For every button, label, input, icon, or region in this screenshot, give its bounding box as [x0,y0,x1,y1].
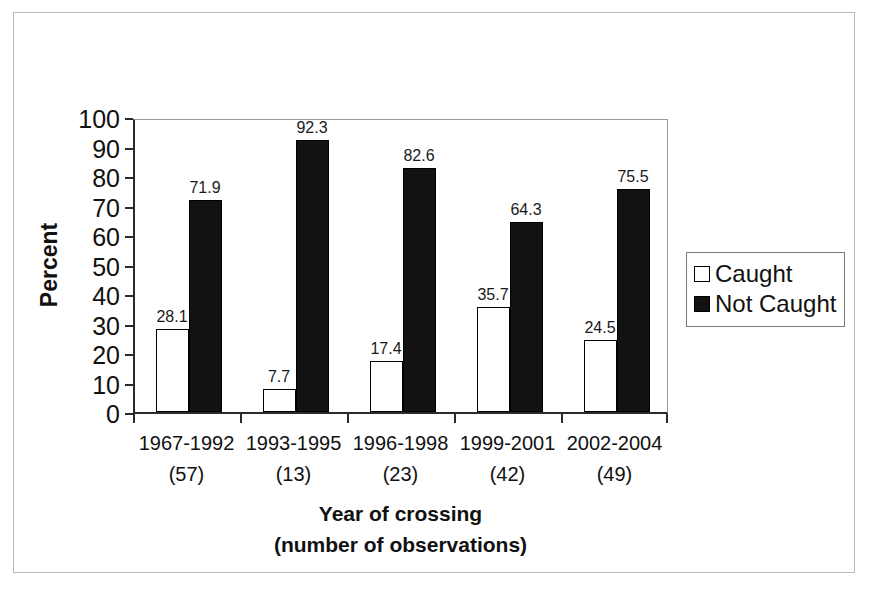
y-tick-mark [125,266,133,268]
y-tick-label: 20 [92,340,120,370]
black-square-icon [694,296,710,312]
bar [584,340,617,412]
bar [403,168,436,412]
x-label-years: 1967-1992 [139,432,235,454]
x-label-count: (23) [341,459,460,490]
x-axis-title-line1: Year of crossing [319,502,482,525]
x-label-count: (57) [127,459,246,490]
y-tick-label: 70 [92,193,120,223]
y-tick-label: 30 [92,311,120,341]
bar [370,361,403,412]
bar [189,200,222,412]
x-label-years: 1999-2001 [460,432,556,454]
chart-figure: Percent 1009080706050403020100 28.171.97… [0,0,869,591]
bar [156,329,189,412]
y-tick-mark [125,177,133,179]
x-axis-category-label: 2002-2004(49) [555,428,674,490]
x-axis-title-line2: (number of observations) [133,529,668,560]
y-axis-ticks: 1009080706050403020100 [0,119,133,414]
bar-group: 28.171.9 [135,120,242,412]
x-tick-mark [347,414,349,423]
legend-label: Not Caught [715,291,836,317]
bar-group: 24.575.5 [563,120,670,412]
y-tick-mark [125,384,133,386]
white-square-icon [694,266,710,282]
x-tick-mark [454,414,456,423]
bar-value-label: 75.5 [607,169,660,185]
bar-value-label: 82.6 [393,148,446,164]
x-axis-category-label: 1993-1995(13) [234,428,353,490]
x-tick-mark [666,414,668,423]
y-tick-label: 0 [106,399,120,429]
x-label-years: 1993-1995 [246,432,342,454]
bar [477,307,510,412]
x-tick-mark [240,414,242,423]
x-axis-labels: 1967-1992(57)1993-1995(13)1996-1998(23)1… [133,428,668,490]
x-axis-category-label: 1996-1998(23) [341,428,460,490]
y-tick-mark [125,148,133,150]
legend-item: Caught [694,259,836,289]
y-tick-mark [125,325,133,327]
bar-value-label: 71.9 [179,180,232,196]
y-tick-mark [125,295,133,297]
bar-value-label: 92.3 [286,120,339,136]
y-tick-label: 50 [92,252,120,282]
bar-group: 7.792.3 [242,120,349,412]
x-label-count: (49) [555,459,674,490]
x-label-count: (42) [448,459,567,490]
legend-item: Not Caught [694,289,836,319]
bar [263,389,296,412]
x-label-years: 1996-1998 [353,432,449,454]
chart-legend: CaughtNot Caught [686,252,845,327]
y-tick-mark [125,118,133,120]
x-label-years: 2002-2004 [567,432,663,454]
x-axis-title: Year of crossing (number of observations… [133,498,668,560]
bar [296,140,329,412]
x-axis-category-label: 1999-2001(42) [448,428,567,490]
x-tick-mark [561,414,563,423]
x-label-count: (13) [234,459,353,490]
plot-area: 28.171.97.792.317.482.635.764.324.575.5 [133,119,668,414]
x-axis-category-label: 1967-1992(57) [127,428,246,490]
y-tick-label: 80 [92,163,120,193]
y-tick-mark [125,354,133,356]
bar-group: 17.482.6 [349,120,456,412]
legend-label: Caught [715,261,792,287]
y-tick-label: 40 [92,281,120,311]
bar [510,222,543,412]
x-tick-mark [133,414,135,423]
y-tick-label: 90 [92,134,120,164]
y-tick-mark [125,236,133,238]
bar [617,189,650,412]
bars-layer: 28.171.97.792.317.482.635.764.324.575.5 [135,120,667,412]
bar-value-label: 64.3 [500,202,553,218]
y-tick-label: 10 [92,370,120,400]
x-axis-ticks [133,414,668,424]
y-tick-label: 60 [92,222,120,252]
y-tick-mark [125,413,133,415]
bar-group: 35.764.3 [456,120,563,412]
y-tick-mark [125,207,133,209]
y-tick-label: 100 [78,104,120,134]
